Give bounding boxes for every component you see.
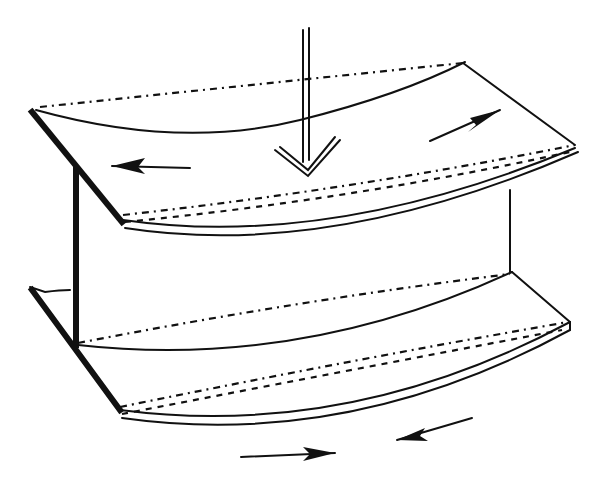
- arrow-right-icon: [430, 110, 500, 141]
- arrow-right-icon: [241, 447, 335, 461]
- web: [76, 170, 510, 345]
- i-beam-drawing: [0, 0, 603, 488]
- arrow-left-icon: [112, 158, 190, 174]
- top-flange: [32, 62, 578, 235]
- bottom-flange: [30, 272, 570, 425]
- arrow-left-icon: [397, 418, 472, 441]
- load-arrow-icon: [275, 28, 340, 176]
- i-beam-diagram: [0, 0, 603, 488]
